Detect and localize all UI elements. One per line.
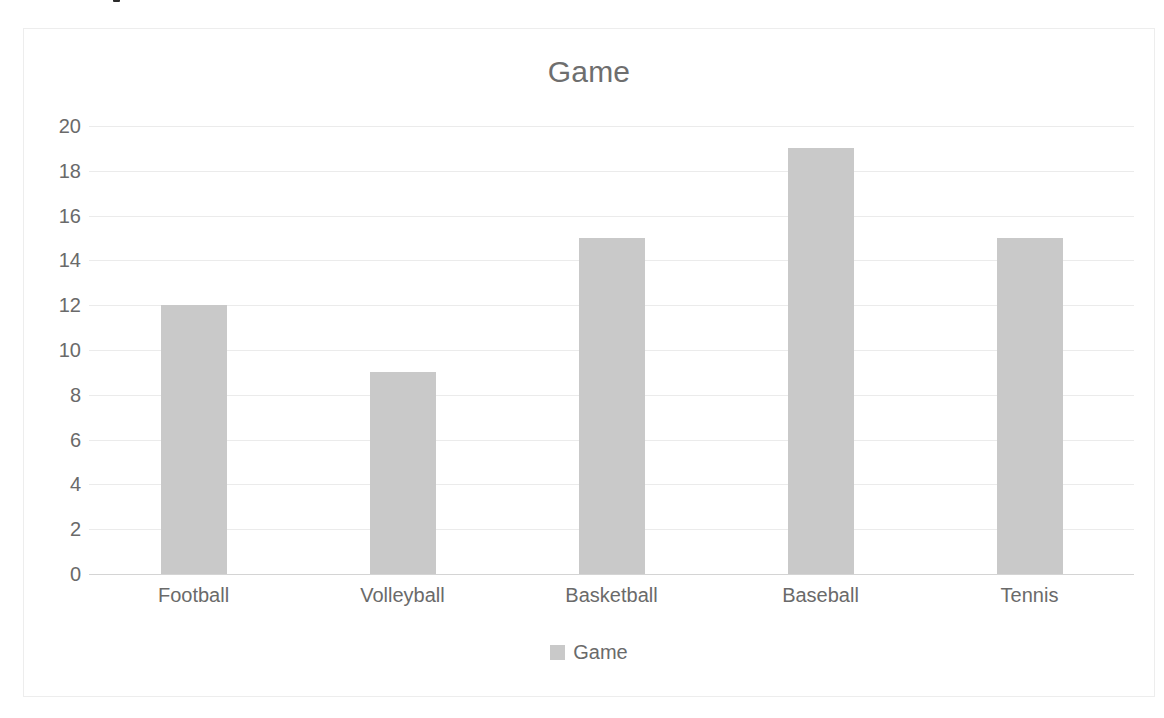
y-axis-tick-label: 4: [70, 474, 81, 494]
y-axis-tick-label: 10: [59, 340, 81, 360]
x-axis-tick-label-tennis: Tennis: [1001, 585, 1059, 605]
legend-item[interactable]: Game: [550, 642, 627, 662]
y-axis-tick-label: 12: [59, 295, 81, 315]
y-axis-tick-label: 14: [59, 250, 81, 270]
x-axis-line: [89, 574, 1134, 575]
y-axis-tick-label: 20: [59, 116, 81, 136]
chart-page: { "chart_data": { "type": "bar", "title"…: [0, 0, 1164, 718]
cropped-text-fragment: [113, 0, 120, 2]
y-axis-tick-label: 16: [59, 206, 81, 226]
bar-tennis[interactable]: [997, 238, 1063, 574]
x-axis-tick-label-volleyball: Volleyball: [360, 585, 445, 605]
chart-canvas: Game 02468101214161820 FootballVolleybal…: [24, 29, 1154, 696]
x-axis-tick-label-basketball: Basketball: [565, 585, 657, 605]
bar-volleyball[interactable]: [370, 372, 436, 574]
bar-football[interactable]: [161, 305, 227, 574]
x-axis-tick-label-baseball: Baseball: [782, 585, 859, 605]
y-axis-tick-labels: 02468101214161820: [24, 126, 81, 574]
bar-basketball[interactable]: [579, 238, 645, 574]
y-axis-tick-label: 0: [70, 564, 81, 584]
y-axis-tick-label: 6: [70, 430, 81, 450]
chart-title: Game: [24, 55, 1154, 89]
plot-area: [89, 126, 1134, 574]
y-axis-tick-label: 8: [70, 385, 81, 405]
bar-series-game: [89, 126, 1134, 574]
chart-legend: Game: [24, 642, 1154, 662]
chart-frame: Game 02468101214161820 FootballVolleybal…: [23, 28, 1155, 697]
legend-swatch-icon: [550, 645, 565, 660]
x-axis-tick-label-football: Football: [158, 585, 229, 605]
x-axis-tick-labels: FootballVolleyballBasketballBaseballTenn…: [89, 585, 1134, 615]
legend-label: Game: [573, 642, 627, 662]
bar-baseball[interactable]: [788, 148, 854, 574]
y-axis-tick-label: 18: [59, 161, 81, 181]
y-axis-tick-label: 2: [70, 519, 81, 539]
